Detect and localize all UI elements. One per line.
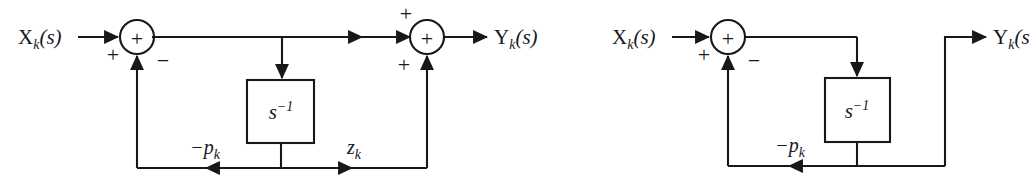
left-input-junction-plus-sign: + (107, 42, 119, 67)
left-input-junction-minus-sign: − (157, 48, 169, 73)
right-input-label: Xk(s) (612, 25, 656, 52)
right-input-junction-plus-sign: + (698, 42, 710, 67)
left-zero-gain-label: zk (346, 136, 362, 162)
left-output-junction-plus-sign-bottom: + (398, 52, 410, 77)
left-output-label: Yk(s) (494, 25, 538, 52)
right-input-junction-symbol: + (722, 26, 734, 51)
right-integrator-label: s−1 (845, 98, 870, 123)
right-diagram-wires (672, 37, 986, 166)
left-input-junction-symbol: + (131, 26, 143, 51)
left-input-label: Xk(s) (18, 25, 62, 52)
right-output-label: Yk(s (993, 25, 1030, 52)
right-input-junction-minus-sign: − (748, 48, 760, 73)
left-output-junction-plus-sign-top: + (400, 1, 412, 26)
diagram-canvas: Xk(s) Yk(s) + + + − + + s−1 −pk zk Xk(s) (0, 0, 1035, 185)
right-pole-gain-label: −pk (775, 134, 806, 160)
block-diagram-figure: Xk(s) Yk(s) + + + − + + s−1 −pk zk Xk(s) (0, 0, 1035, 185)
left-output-junction-symbol: + (421, 26, 433, 51)
left-integrator-label: s−1 (269, 99, 294, 124)
left-pole-gain-label: −pk (190, 136, 221, 162)
